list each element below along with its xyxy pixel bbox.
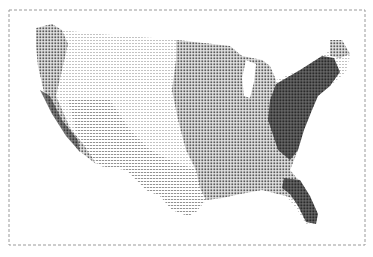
region-northeast [268,56,340,160]
region-florida [282,178,318,224]
us-map [0,0,373,257]
